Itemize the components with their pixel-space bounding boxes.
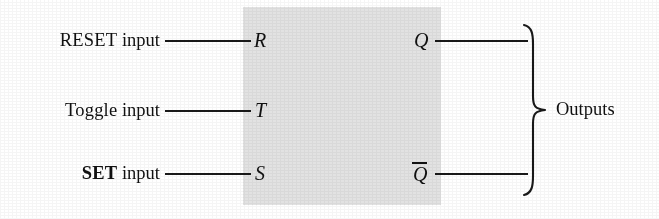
wire-q-to-brace: [435, 40, 528, 42]
wire-reset-to-r: [165, 40, 251, 42]
input-label-set-suffix: input: [117, 163, 160, 183]
outputs-group-label: Outputs: [556, 100, 615, 119]
port-label-q-bar: Q: [413, 162, 427, 184]
outputs-brace-icon: [522, 22, 548, 198]
wire-set-to-s: [165, 173, 251, 175]
wire-toggle-to-t: [165, 110, 251, 112]
port-label-r: R: [254, 30, 266, 50]
input-label-set: SET input: [0, 164, 160, 183]
flipflop-body: [243, 7, 441, 205]
input-label-reset: RESET input: [0, 31, 160, 50]
port-label-q-bar-text: Q: [413, 162, 427, 184]
port-label-s: S: [255, 163, 265, 183]
input-label-set-keyword: SET: [82, 163, 118, 183]
flipflop-diagram: RESET input Toggle input SET input R T S…: [0, 0, 659, 219]
port-label-q: Q: [414, 30, 428, 50]
port-label-t: T: [255, 100, 266, 120]
wire-qbar-to-brace: [435, 173, 528, 175]
input-label-reset-suffix: input: [117, 30, 160, 50]
input-label-toggle: Toggle input: [0, 101, 160, 120]
input-label-reset-keyword: RESET: [60, 30, 118, 50]
input-label-toggle-suffix: input: [117, 100, 160, 120]
input-label-toggle-keyword: Toggle: [65, 100, 117, 120]
